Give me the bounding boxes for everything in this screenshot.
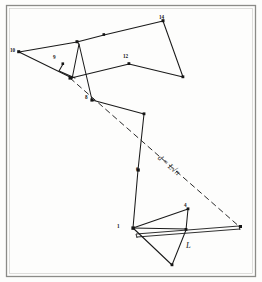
figure-border xyxy=(7,6,256,277)
vertex-dot xyxy=(76,40,79,43)
walk-segment-lower-chord xyxy=(133,228,186,229)
walk-segment-middle-descent xyxy=(92,100,144,228)
vertex-label-8: 8 xyxy=(85,95,88,100)
vertex-dot xyxy=(103,33,106,36)
vertex-dot xyxy=(185,228,188,231)
vertex-dot xyxy=(128,62,131,65)
vertex-dot xyxy=(182,75,185,78)
vertex-dot xyxy=(90,98,93,101)
vertex-dot xyxy=(62,62,65,65)
vertex-label-1: 1 xyxy=(117,224,120,229)
random-walk-diagram xyxy=(0,0,262,282)
vertex-label-10: 10 xyxy=(10,48,15,53)
vertex-dot xyxy=(17,50,20,53)
vertex-dot xyxy=(171,263,174,266)
vertex-label-9: 9 xyxy=(53,55,56,60)
vertex-dot xyxy=(239,225,242,228)
figure-border-inner xyxy=(10,9,253,274)
vertex-label-14: 14 xyxy=(159,15,164,20)
walk-segment-upper-left-loop xyxy=(19,42,79,79)
walk-segment-upper-chain xyxy=(71,21,183,78)
vertex-label-4: 4 xyxy=(184,203,187,208)
vertex-dot xyxy=(131,226,134,229)
vertex-label-12: 12 xyxy=(123,54,128,59)
scale-bar-tick-left xyxy=(136,234,137,238)
figure-frame: 10 9 8 12 14 6 1 4 d = L√n L xyxy=(0,0,262,282)
vertex-dot xyxy=(187,207,190,210)
vertex-dot xyxy=(69,76,72,79)
figure-root: 10 9 8 12 14 6 1 4 d = L√n L xyxy=(0,0,262,282)
vertex-label-6: 6 xyxy=(136,167,139,172)
step-length-label: L xyxy=(186,240,191,250)
vertex-dot xyxy=(143,112,146,115)
